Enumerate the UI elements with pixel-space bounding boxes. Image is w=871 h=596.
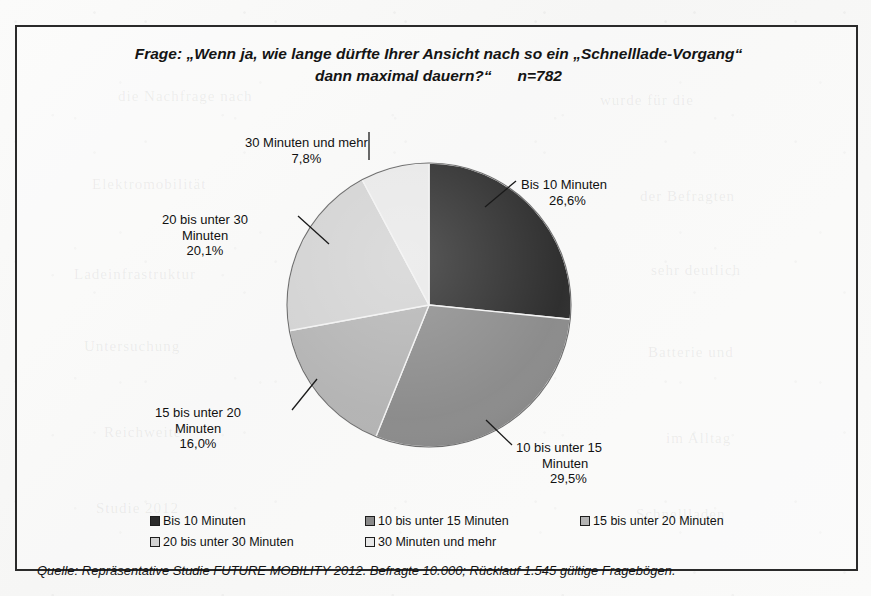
callout-15-bis-unter-20: 15 bis unter 20 Minuten 16,0%	[155, 405, 241, 452]
legend-item-bis-10-minuten[interactable]: Bis 10 Minuten	[150, 514, 365, 528]
callout-bis-10-minuten: Bis 10 Minuten 26,6%	[521, 177, 607, 208]
chart-source-text: Quelle: Repräsentative Studie FUTURE MOB…	[37, 563, 676, 578]
callout-u30-label-line1: 20 bis unter 30	[162, 212, 248, 227]
chart-title-line2: dann maximal dauern?“	[315, 67, 492, 84]
legend-item-20-bis-unter-30-minuten[interactable]: 20 bis unter 30 Minuten	[150, 535, 365, 549]
legend-label-10-bis-unter-15-minuten: 10 bis unter 15 Minuten	[378, 514, 509, 528]
callout-mehr-percent: 7,8%	[245, 151, 368, 167]
callout-20-bis-unter-30: 20 bis unter 30 Minuten 20,1%	[162, 212, 248, 259]
chart-frame: Frage: „Wenn ja, wie lange dürfte Ihrer …	[15, 25, 858, 571]
legend-label-30-minuten-und-mehr: 30 Minuten und mehr	[378, 535, 496, 549]
callout-mehr-label: 30 Minuten und mehr	[245, 135, 368, 150]
legend-label-20-bis-unter-30-minuten: 20 bis unter 30 Minuten	[163, 535, 294, 549]
chart-title-line1: Frage: „Wenn ja, wie lange dürfte Ihrer …	[135, 45, 742, 62]
legend-item-10-bis-unter-15-minuten[interactable]: 10 bis unter 15 Minuten	[365, 514, 580, 528]
legend-swatch-bis-10-minuten	[150, 516, 160, 526]
legend-swatch-10-bis-unter-15-minuten	[365, 516, 375, 526]
callout-u20-percent: 16,0%	[155, 436, 241, 452]
callout-u20-label-line2: Minuten	[175, 421, 221, 436]
callout-bis10-label: Bis 10 Minuten	[521, 177, 607, 192]
legend-swatch-15-bis-unter-20-minuten	[580, 516, 590, 526]
legend-label-15-bis-unter-20-minuten: 15 bis unter 20 Minuten	[593, 514, 724, 528]
callout-30-minuten-und-mehr: 30 Minuten und mehr 7,8%	[245, 135, 368, 166]
legend-swatch-30-minuten-und-mehr	[365, 537, 375, 547]
legend-item-15-bis-unter-20-minuten[interactable]: 15 bis unter 20 Minuten	[580, 514, 770, 528]
chart-source-note: Quelle: Repräsentative Studie FUTURE MOB…	[37, 563, 676, 578]
callout-u30-label-line2: Minuten	[182, 228, 228, 243]
callout-10-bis-unter-15: 10 bis unter 15 Minuten 29,5%	[516, 440, 602, 487]
legend-row-1: Bis 10 Minuten 10 bis unter 15 Minuten 1…	[150, 514, 770, 528]
legend-label-bis-10-minuten: Bis 10 Minuten	[163, 514, 246, 528]
legend-item-30-minuten-und-mehr[interactable]: 30 Minuten und mehr	[365, 535, 580, 549]
chart-title: Frage: „Wenn ja, wie lange dürfte Ihrer …	[37, 43, 840, 87]
legend-swatch-20-bis-unter-30-minuten	[150, 537, 160, 547]
callout-u15-label-line2: Minuten	[516, 456, 588, 471]
callout-u15-label-line1: 10 bis unter 15	[516, 440, 602, 455]
callout-u30-percent: 20,1%	[162, 243, 248, 259]
callout-u15-percent: 29,5%	[516, 471, 602, 487]
callout-u20-label-line1: 15 bis unter 20	[155, 405, 241, 420]
sample-size-label: n=782	[492, 67, 562, 84]
callout-bis10-percent: 26,6%	[521, 193, 607, 209]
chart-legend: Bis 10 Minuten 10 bis unter 15 Minuten 1…	[150, 514, 770, 556]
legend-row-2: 20 bis unter 30 Minuten 30 Minuten und m…	[150, 535, 770, 549]
